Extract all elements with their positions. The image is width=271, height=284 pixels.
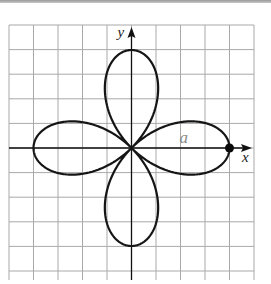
marked-point [225,144,234,153]
parameter-a-label: a [180,128,189,147]
axes [9,27,252,280]
rose-curve-figure: x y a [0,0,271,284]
x-axis-label: x [241,149,249,165]
y-axis-label: y [116,24,125,40]
plot-canvas: x y a [0,0,271,284]
